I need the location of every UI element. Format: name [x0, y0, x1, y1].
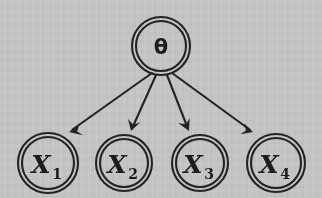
node-label-x4-subscript: 4: [280, 166, 290, 182]
node-label-theta: θ: [154, 35, 168, 59]
edge-line: [172, 73, 250, 130]
arrowhead-icon: [69, 124, 83, 135]
node-x3[interactable]: X 3: [172, 135, 228, 191]
node-label-x3: X: [181, 150, 204, 179]
edge-group: [69, 73, 253, 135]
node-x2[interactable]: X 2: [96, 135, 152, 191]
arrowhead-icon: [128, 119, 140, 131]
edge-theta-to-x2: [128, 75, 156, 131]
node-label-x1: X: [29, 150, 52, 179]
graphical-model-figure: θ X 1 X 2 X 3 X 4: [0, 0, 322, 198]
node-label-x3-subscript: 3: [204, 166, 214, 182]
node-label-x2: X: [105, 150, 128, 179]
edge-theta-to-x1: [69, 73, 152, 135]
edge-line: [133, 75, 157, 128]
diagram-canvas: θ X 1 X 2 X 3 X 4: [0, 0, 322, 198]
node-label-x2-subscript: 2: [128, 166, 138, 182]
edge-line: [73, 73, 153, 130]
node-x4[interactable]: X 4: [247, 134, 305, 192]
node-theta[interactable]: θ: [132, 17, 190, 75]
node-x1[interactable]: X 1: [18, 133, 78, 193]
node-label-x1-subscript: 1: [52, 166, 62, 182]
node-label-x4: X: [257, 150, 280, 179]
